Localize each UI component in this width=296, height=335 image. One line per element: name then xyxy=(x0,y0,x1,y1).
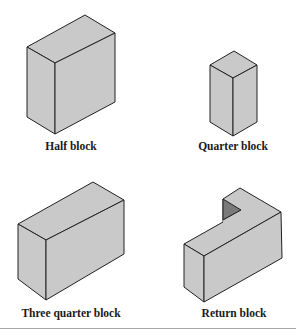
three-quarter-block-label: Three quarter block xyxy=(21,307,120,319)
blocks-diagram xyxy=(0,0,296,335)
three-quarter-block-drawing xyxy=(18,182,124,300)
return-block-label: Return block xyxy=(202,307,267,319)
half-block-drawing xyxy=(27,15,115,134)
half-block-label: Half block xyxy=(45,140,96,152)
separator-line xyxy=(0,328,296,329)
quarter-block-label: Quarter block xyxy=(198,140,268,152)
return-block-drawing xyxy=(184,188,282,302)
quarter-block-drawing xyxy=(210,51,257,136)
